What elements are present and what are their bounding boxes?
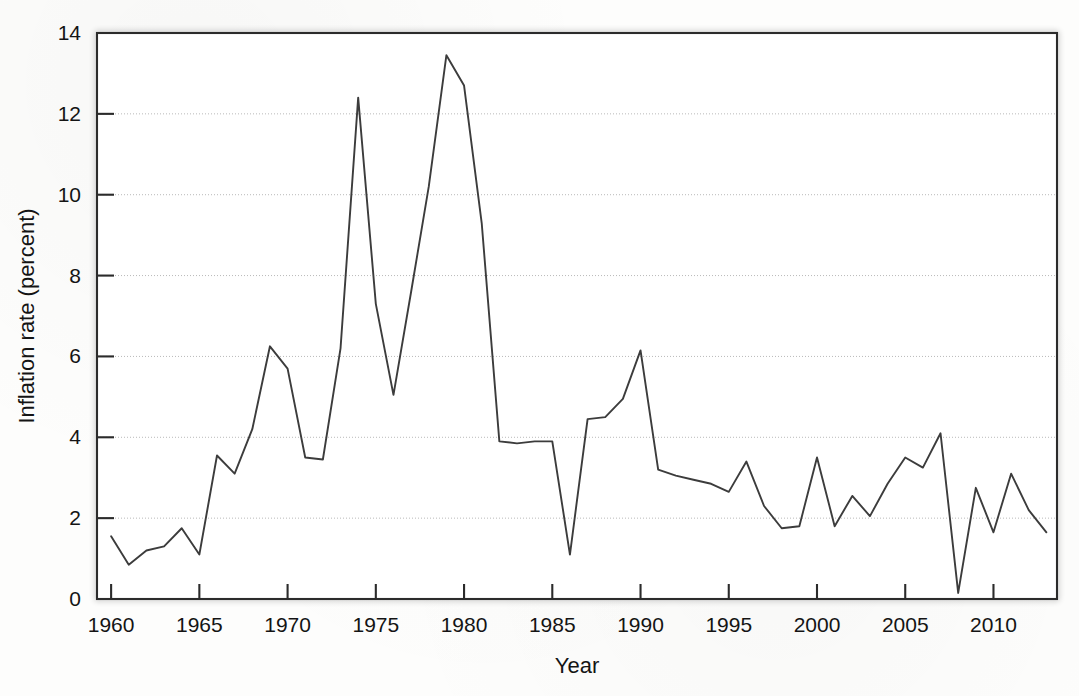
- chart-figure: 02468101214 1960196519701975198019851990…: [0, 0, 1079, 696]
- x-tick-label-1975: 1975: [352, 613, 399, 636]
- x-axis-title: Year: [555, 653, 599, 678]
- plot-area-background: [97, 33, 1057, 599]
- y-tick-label-6: 6: [69, 344, 81, 367]
- x-tick-label-1995: 1995: [705, 613, 752, 636]
- x-tick-label-1985: 1985: [529, 613, 576, 636]
- y-tick-label-2: 2: [69, 506, 81, 529]
- x-tick-label-2005: 2005: [882, 613, 929, 636]
- x-tick-label-1980: 1980: [441, 613, 488, 636]
- y-tick-label-14: 14: [58, 21, 82, 44]
- y-tick-label-10: 10: [58, 183, 81, 206]
- y-tick-label-4: 4: [69, 425, 81, 448]
- x-tick-label-1970: 1970: [264, 613, 311, 636]
- y-axis-title: Inflation rate (percent): [14, 208, 39, 423]
- x-tick-label-1990: 1990: [617, 613, 664, 636]
- x-tick-label-1960: 1960: [88, 613, 135, 636]
- y-tick-label-8: 8: [69, 264, 81, 287]
- x-tick-label-2010: 2010: [970, 613, 1017, 636]
- x-tick-label-1965: 1965: [176, 613, 223, 636]
- x-tick-label-2000: 2000: [794, 613, 841, 636]
- inflation-rate-line-chart: 02468101214 1960196519701975198019851990…: [0, 0, 1079, 696]
- y-tick-label-0: 0: [69, 587, 81, 610]
- y-tick-label-12: 12: [58, 102, 81, 125]
